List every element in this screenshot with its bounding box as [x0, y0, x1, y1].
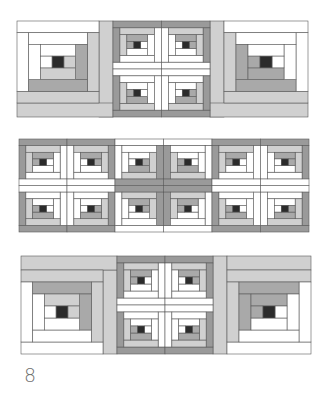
log-top — [165, 256, 213, 263]
log-top — [81, 199, 102, 206]
log-right — [158, 263, 165, 298]
log-right — [148, 35, 155, 56]
log-left — [67, 146, 74, 179]
small-log-cabin-tr — [165, 256, 213, 305]
log-right — [191, 159, 198, 166]
log-top — [274, 199, 295, 206]
log-top — [127, 35, 148, 42]
log-bottom — [74, 219, 108, 226]
small-log-cabin-br — [164, 186, 213, 233]
log-right — [141, 90, 148, 97]
center-square — [281, 205, 288, 212]
log-left — [175, 90, 182, 97]
log-bottom — [120, 55, 155, 62]
log-right — [157, 146, 164, 179]
log-right — [205, 146, 212, 179]
log-left — [212, 192, 219, 225]
small-log-cabin-tl — [19, 139, 67, 186]
log-right — [157, 192, 164, 225]
log-left — [124, 270, 131, 291]
log-top — [117, 305, 165, 312]
small-log-cabin-bl — [113, 69, 162, 117]
log-top — [212, 139, 261, 146]
log-left — [129, 159, 136, 166]
log-bottom — [179, 333, 200, 340]
log-right — [203, 76, 210, 110]
log-left — [44, 306, 56, 318]
log-top — [115, 186, 164, 193]
log-left — [251, 306, 263, 318]
log-top — [172, 312, 206, 319]
log-top — [165, 305, 213, 312]
log-top — [224, 21, 308, 33]
log-top — [261, 139, 310, 146]
log-top — [177, 152, 198, 159]
log-left — [122, 152, 129, 172]
center-square — [56, 306, 68, 318]
log-left — [168, 35, 175, 56]
log-bottom — [177, 212, 198, 219]
log-left — [117, 312, 124, 347]
center-square — [134, 90, 141, 97]
center-square — [40, 159, 47, 166]
log-bottom — [162, 110, 211, 117]
log-left — [127, 90, 134, 97]
log-left — [113, 28, 120, 62]
log-left — [226, 205, 233, 212]
log-top — [212, 186, 261, 193]
center-square — [138, 277, 145, 284]
center-square — [263, 306, 275, 318]
log-right — [150, 199, 157, 219]
log-top — [124, 312, 158, 319]
log-bottom — [127, 48, 148, 55]
log-left — [179, 277, 186, 284]
log-right — [206, 312, 213, 347]
log-top — [219, 146, 254, 153]
log-bottom — [131, 284, 152, 291]
border-strip — [17, 103, 113, 117]
log-bottom — [117, 298, 165, 305]
large-block-bottom-left — [21, 270, 103, 354]
log-bottom — [81, 166, 102, 173]
quilt-row-2 — [19, 139, 309, 232]
center-square — [52, 56, 64, 68]
log-top — [129, 199, 150, 206]
small-log-cabin-tr — [162, 21, 211, 69]
log-left — [113, 76, 120, 110]
log-right — [87, 33, 99, 92]
log-bottom — [19, 179, 67, 186]
log-top — [44, 294, 79, 306]
log-bottom — [227, 342, 311, 354]
log-right — [155, 28, 162, 62]
log-top — [131, 270, 152, 277]
small-log-cabin-tl — [212, 139, 261, 186]
log-bottom — [113, 62, 162, 69]
log-left — [40, 56, 52, 68]
log-left — [219, 199, 226, 219]
log-left — [274, 205, 281, 212]
log-bottom — [33, 212, 54, 219]
log-left — [120, 83, 127, 104]
small-log-cabin-tr — [67, 139, 115, 186]
log-right — [155, 76, 162, 110]
log-bottom — [175, 48, 196, 55]
center-square — [184, 159, 191, 166]
large-block-top-left — [17, 21, 99, 103]
log-right — [189, 42, 196, 49]
log-left — [236, 44, 248, 79]
log-right — [302, 192, 309, 225]
log-top — [81, 152, 102, 159]
log-top — [131, 319, 152, 326]
small-log-cabin-bl — [115, 186, 164, 233]
log-top — [122, 146, 157, 153]
log-bottom — [261, 179, 310, 186]
log-right — [240, 205, 247, 212]
border-strip — [210, 103, 308, 117]
log-right — [203, 28, 210, 62]
log-bottom — [19, 225, 67, 232]
log-left — [177, 205, 184, 212]
four-patch-group — [212, 139, 309, 232]
log-right — [192, 326, 199, 333]
log-bottom — [127, 96, 148, 103]
log-top — [115, 139, 164, 146]
